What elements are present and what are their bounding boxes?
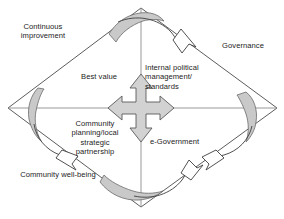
four-way-arrow-icon (108, 74, 174, 142)
swoosh-left (28, 88, 78, 170)
diagram-graphics (0, 0, 284, 219)
swoosh-right (202, 92, 257, 170)
diagram-canvas: Continuous improvement Governance Commun… (0, 0, 284, 219)
swoosh-bottom (100, 160, 203, 200)
swoosh-top (109, 13, 196, 53)
